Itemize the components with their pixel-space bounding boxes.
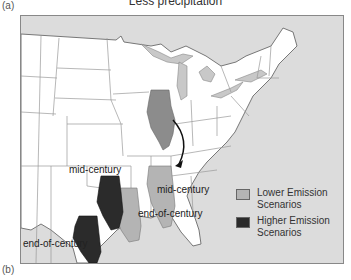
annotation-end-of-century-right: end-of-century [138,208,202,219]
legend-higher-line1: Higher Emission [257,215,330,226]
lower-emission-swatch [236,189,250,200]
legend-item-higher-emission: Higher Emission Scenarios [236,215,336,239]
panel-b-label: (b) [2,264,14,275]
annotation-mid-century-left: mid-century [69,164,121,175]
annotation-end-of-century-left: end-of-century [23,238,87,249]
higher-emission-swatch [236,217,250,228]
legend: Lower Emission Scenarios Higher Emission… [236,187,336,243]
legend-lower-line1: Lower Emission [257,187,328,198]
annotation-mid-century-right: mid-century [157,184,209,195]
legend-lower-line2: Scenarios [257,199,301,210]
map-title: Less precipitation [0,0,351,8]
legend-higher-line2: Scenarios [257,227,301,238]
legend-item-lower-emission: Lower Emission Scenarios [236,187,336,211]
